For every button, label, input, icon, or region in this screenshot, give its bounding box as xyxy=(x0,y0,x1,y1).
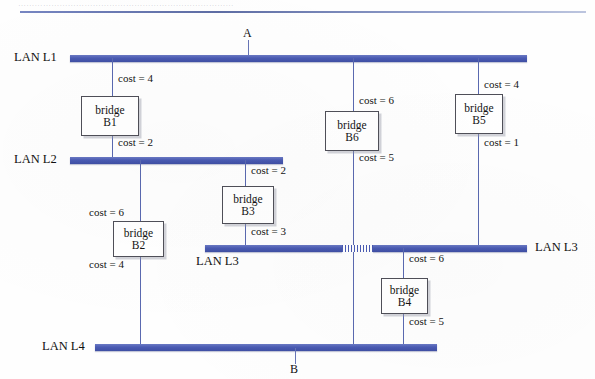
link-l1-b6 xyxy=(353,58,354,111)
lan-label-l4: LAN L4 xyxy=(42,339,85,354)
cost-label-b4-top: cost = 6 xyxy=(409,252,444,264)
cost-label-b3-top: cost = 2 xyxy=(251,164,286,176)
bridge-word-b1: bridge xyxy=(95,104,124,116)
bridge-id-b6: B6 xyxy=(345,131,358,143)
header-divider-rule xyxy=(20,11,586,13)
bridge-word-b4: bridge xyxy=(390,284,419,296)
bridge-box-b2[interactable]: bridge B2 xyxy=(113,221,164,257)
bridge-box-b5[interactable]: bridge B5 xyxy=(455,94,503,134)
lan-bus-l4 xyxy=(95,344,437,351)
lan-label-l3-right: LAN L3 xyxy=(535,240,578,255)
lan-bus-l2 xyxy=(70,157,283,164)
lan-bus-l1 xyxy=(70,55,527,62)
bridge-id-b4: B4 xyxy=(398,296,411,308)
link-b2-l4 xyxy=(140,255,141,348)
bridge-id-b5: B5 xyxy=(472,114,485,126)
bridge-box-b6[interactable]: bridge B6 xyxy=(325,111,379,151)
lan-bus-l3-right xyxy=(373,245,527,252)
link-l2-b3 xyxy=(245,160,246,187)
bridge-id-b1: B1 xyxy=(103,116,116,128)
link-b6-l4 xyxy=(353,249,354,348)
bridge-id-b2: B2 xyxy=(132,239,145,251)
cost-label-b1-bottom: cost = 2 xyxy=(118,136,153,148)
link-l2-b2 xyxy=(140,160,141,222)
link-l1-b1 xyxy=(112,58,113,96)
cost-label-b5-top: cost = 4 xyxy=(484,78,519,90)
lan-label-l1: LAN L1 xyxy=(14,50,57,65)
cost-label-b4-bottom: cost = 5 xyxy=(409,315,444,327)
endpoint-label-a: A xyxy=(243,26,252,41)
cost-label-b6-top: cost = 6 xyxy=(359,94,394,106)
link-l1-b5 xyxy=(478,58,479,94)
bridge-word-b5: bridge xyxy=(464,102,493,114)
link-b6-l3 xyxy=(353,149,354,249)
header-ghost-text: …………………………………………………………………… xyxy=(18,0,538,7)
lan-label-l3-left: LAN L3 xyxy=(196,254,239,269)
bridge-box-b3[interactable]: bridge B3 xyxy=(222,186,274,224)
bridge-word-b3: bridge xyxy=(233,193,262,205)
cost-label-b6-bottom: cost = 5 xyxy=(359,151,394,163)
bridge-id-b3: B3 xyxy=(241,205,254,217)
link-b5-l3 xyxy=(478,132,479,249)
cost-label-b1-top: cost = 4 xyxy=(118,72,153,84)
link-l3-b4 xyxy=(403,248,404,279)
cost-label-b2-bottom: cost = 4 xyxy=(89,258,124,270)
bridge-box-b4[interactable]: bridge B4 xyxy=(381,278,428,314)
link-b4-l4 xyxy=(403,312,404,348)
cost-label-b5-bottom: cost = 1 xyxy=(484,136,519,148)
lan-bus-l3-repeater-hatch xyxy=(342,245,373,252)
lan-bus-l3-left xyxy=(205,245,342,252)
bridge-box-b1[interactable]: bridge B1 xyxy=(81,96,139,136)
cost-label-b3-bottom: cost = 3 xyxy=(251,225,286,237)
endpoint-label-b: B xyxy=(290,362,298,377)
lan-label-l2: LAN L2 xyxy=(14,152,57,167)
cost-label-b2-top: cost = 6 xyxy=(89,206,124,218)
bridge-word-b2: bridge xyxy=(124,227,153,239)
network-diagram-canvas: …………………………………………………………………… A LAN L1 cost… xyxy=(0,0,595,379)
bridge-word-b6: bridge xyxy=(337,119,366,131)
